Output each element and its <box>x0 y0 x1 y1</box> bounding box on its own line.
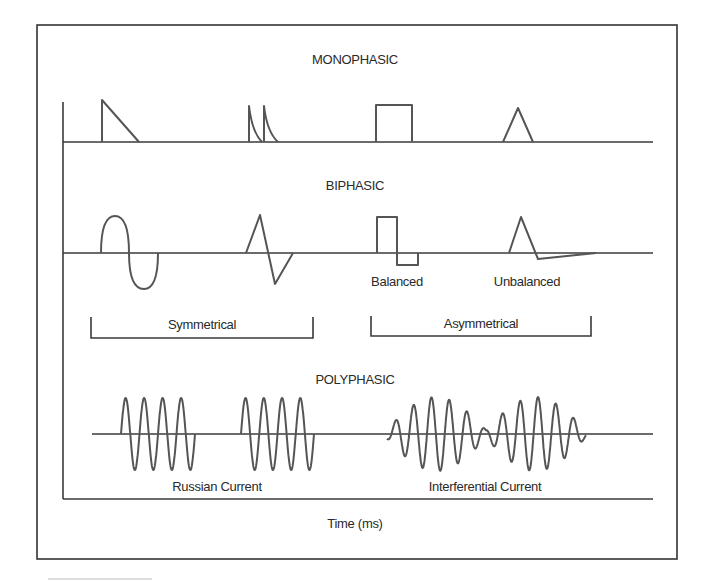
symmetrical-label: Symmetrical <box>168 317 237 332</box>
russian-current-label: Russian Current <box>172 479 262 494</box>
unbalanced-label: Unbalanced <box>494 274 560 289</box>
monophasic-sawtooth-wave <box>102 100 139 142</box>
x-axis-label: Time (ms) <box>327 516 382 531</box>
monophasic-spike-wave <box>249 106 278 142</box>
biphasic-title: BIPHASIC <box>326 178 384 193</box>
diagram-frame <box>37 25 677 559</box>
monophasic-triangular-wave <box>503 108 533 142</box>
biphasic-triangular-wave <box>246 215 293 284</box>
asymmetrical-label: Asymmetrical <box>444 316 519 331</box>
monophasic-rectangular-wave <box>376 105 412 142</box>
polyphasic-title: POLYPHASIC <box>315 372 394 387</box>
biphasic-balanced-wave <box>377 217 418 265</box>
monophasic-title: MONOPHASIC <box>312 52 398 67</box>
interferential-current-label: Interferential Current <box>429 479 542 494</box>
waveform-diagram: MONOPHASIC BIPHASIC Balanced Unbalanced … <box>0 0 710 581</box>
balanced-label: Balanced <box>371 274 423 289</box>
